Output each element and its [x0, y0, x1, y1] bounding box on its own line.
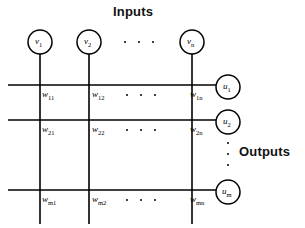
- input-node-circles: [28, 30, 204, 54]
- input-node-vn-label: vn: [187, 37, 194, 48]
- weight-label-w2n: w2n: [190, 125, 203, 136]
- output-node-um-label: um: [222, 187, 232, 198]
- weights-row-1-ellipsis: [126, 94, 156, 96]
- inputs-title: Inputs: [113, 4, 153, 19]
- input-lines-group: [40, 54, 192, 224]
- weight-label-wm1: wm1: [42, 195, 56, 206]
- crossbar-weight-matrix-figure: Inputs Outputs v1 v2 vn u1 u2 um w11 w12…: [0, 0, 305, 228]
- weights-row-2-ellipsis: [126, 129, 156, 131]
- weight-label-w11: w11: [42, 90, 54, 101]
- weight-label-w1n: w1n: [190, 90, 203, 101]
- input-node-v2-label: v2: [84, 37, 91, 48]
- output-node-circles: [216, 75, 240, 204]
- weight-label-wmn: wmn: [190, 195, 204, 206]
- weight-label-w12: w12: [92, 90, 105, 101]
- output-nodes-ellipsis: [227, 142, 229, 166]
- weight-label-w21: w21: [42, 125, 55, 136]
- weight-label-w22: w22: [92, 125, 105, 136]
- input-nodes-ellipsis: [124, 41, 154, 43]
- weights-row-m-ellipsis: [126, 199, 156, 201]
- input-node-v1-label: v1: [35, 37, 42, 48]
- output-node-u2-label: u2: [223, 117, 231, 128]
- weight-label-wm2: wm2: [92, 195, 106, 206]
- outputs-title: Outputs: [239, 144, 290, 159]
- output-node-u1-label: u1: [223, 82, 231, 93]
